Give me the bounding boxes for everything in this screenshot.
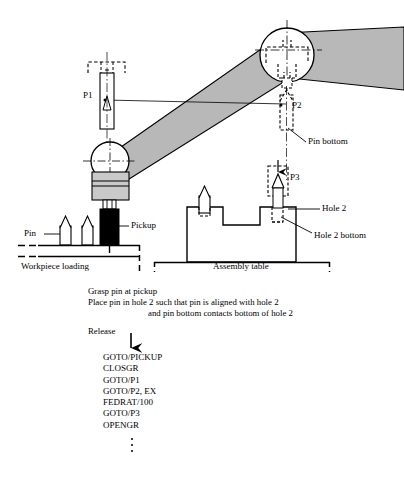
pickup-block: [100, 209, 119, 253]
callout-label-pin: Pin: [24, 228, 36, 238]
continuation-dot: [131, 438, 133, 440]
instruction-line-3: and pin bottom contacts bottom of hole 2: [88, 308, 293, 319]
program-line-closgr: CLOSGR: [103, 363, 162, 374]
program-line-goto-p1: GOTO/P1: [103, 375, 162, 386]
task-instructions: Grasp pin at pickup Place pin in hole 2 …: [88, 286, 293, 337]
instruction-line-2: Place pin in hole 2 such that pin is ali…: [88, 297, 293, 308]
loading-pin-2: [82, 216, 93, 245]
p3-gripper-pin: [268, 160, 288, 208]
callout-label-p1: P1: [83, 90, 93, 100]
hole-1-pin: [199, 186, 210, 216]
callout-label-assembly-table: Assembly table: [213, 261, 269, 271]
callout-label-pickup: Pickup: [131, 220, 156, 230]
instruction-line-4: Release: [88, 319, 293, 337]
callout-label-p3: P3: [290, 172, 300, 182]
program-line-goto-p3: GOTO/P3: [103, 408, 162, 419]
program-continuation-dots: [131, 438, 133, 452]
callout-label-p2: P2: [292, 100, 302, 110]
loading-pin-1: [60, 216, 71, 245]
program-line-goto-pickup: GOTO/PICKUP: [103, 352, 162, 363]
p1-gripper-pin: [88, 52, 125, 145]
callout-label-workpiece-loading: Workpiece loading: [21, 261, 89, 271]
instruction-line-1: Grasp pin at pickup: [88, 286, 293, 297]
continuation-dot: [131, 450, 133, 452]
gripper-body: [92, 172, 129, 209]
program-line-opengr: OPENGR: [103, 420, 162, 431]
program-listing: GOTO/PICKUP CLOSGR GOTO/P1 GOTO/P2, EX F…: [103, 352, 162, 431]
program-line-fedrat: FEDRAT/100: [103, 397, 162, 408]
continuation-dot: [131, 444, 133, 446]
program-line-goto-p2-ex: GOTO/P2, EX: [103, 386, 162, 397]
callout-label-hole-2-bottom: Hole 2 bottom: [314, 230, 366, 240]
callout-label-pin-bottom: Pin bottom: [308, 136, 348, 146]
callout-label-hole-2: Hole 2: [322, 203, 346, 213]
figure-page: P1 P2 P3 Pin Pickup Pin bottom Hole 2 Ho…: [0, 0, 404, 479]
robot-arm-link: [101, 27, 404, 186]
